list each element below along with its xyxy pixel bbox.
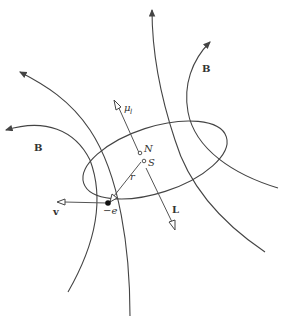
- magnetic-field-diagram: B B μ l N S r L v −e: [0, 0, 281, 318]
- label-r: r: [130, 171, 136, 182]
- nucleus-n-point: [138, 151, 142, 155]
- label-l: L: [172, 204, 179, 215]
- velocity-line: [64, 202, 107, 203]
- label-b-right: B: [202, 63, 210, 74]
- l-arrow-head: [169, 220, 175, 230]
- mu-arrow-line: [118, 106, 140, 155]
- radius-arrow-head: [110, 194, 117, 202]
- label-n: N: [143, 143, 154, 154]
- label-mu-sub: l: [130, 108, 132, 116]
- label-v: v: [52, 206, 60, 217]
- field-line-1: [6, 125, 97, 292]
- field-line-4: [187, 42, 278, 188]
- label-electron: −e: [103, 205, 117, 216]
- mu-arrow-head: [114, 100, 121, 110]
- orbit-ellipse: [73, 105, 236, 214]
- nucleus-s-point: [142, 159, 146, 163]
- label-s: S: [148, 157, 155, 168]
- l-arrow-line: [146, 168, 172, 222]
- label-b-left: B: [34, 142, 42, 153]
- radius-line: [114, 162, 141, 196]
- velocity-arrow-head: [57, 199, 65, 205]
